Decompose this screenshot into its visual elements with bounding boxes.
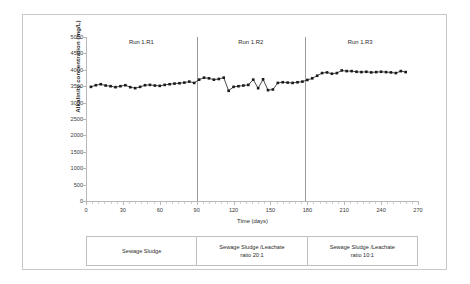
x-minor-tick [258, 202, 259, 204]
x-minor-tick [209, 202, 210, 204]
x-minor-tick [393, 202, 394, 204]
data-point-marker [119, 85, 122, 88]
data-point-marker [222, 76, 225, 79]
data-point-marker [144, 84, 147, 87]
data-point-marker [183, 81, 186, 84]
x-tick-mark [307, 202, 308, 205]
x-tick-mark [418, 202, 419, 205]
data-point-marker [296, 81, 299, 84]
x-minor-tick [178, 202, 179, 204]
x-tick-mark [86, 202, 87, 205]
y-tick-label: 1000 [53, 165, 83, 171]
x-minor-tick [98, 202, 99, 204]
data-point-marker [134, 87, 137, 90]
x-minor-tick [215, 202, 216, 204]
x-minor-tick [252, 202, 253, 204]
data-point-marker [375, 71, 378, 74]
x-minor-tick [338, 202, 339, 204]
data-point-marker [365, 70, 368, 73]
data-point-marker [90, 86, 93, 89]
data-point-marker [331, 72, 334, 75]
data-point-marker [149, 84, 152, 87]
x-tick-mark [123, 202, 124, 205]
data-point-marker [370, 71, 373, 74]
data-point-marker [114, 86, 117, 89]
x-tick-mark [270, 202, 271, 205]
x-minor-tick [283, 202, 284, 204]
data-point-marker [213, 78, 216, 81]
data-point-marker [129, 86, 132, 89]
data-point-marker [286, 81, 289, 84]
data-point-marker [326, 71, 329, 74]
data-point-marker [306, 79, 309, 82]
data-point-marker [316, 74, 319, 77]
y-axis-tick-labels: 0500100015002000250030003500400045005000 [53, 15, 83, 215]
x-minor-tick [154, 202, 155, 204]
data-point-marker [109, 85, 112, 88]
data-point-marker [163, 84, 166, 87]
data-point-marker [242, 84, 245, 87]
data-point-marker [301, 80, 304, 83]
x-minor-tick [135, 202, 136, 204]
x-tick-label: 240 [366, 207, 396, 213]
data-point-marker [252, 78, 255, 81]
x-minor-tick [221, 202, 222, 204]
data-point-marker [168, 83, 171, 86]
x-tick-mark [197, 202, 198, 205]
data-point-marker [385, 71, 388, 74]
condition-cell-text: Sewage Sludge [122, 247, 161, 255]
condition-cell-2: Sewage Sludge /Leachateratio 20:1 [197, 237, 307, 265]
data-point-marker [124, 84, 127, 87]
y-tick-label: 3500 [53, 83, 83, 89]
data-point-marker [399, 70, 402, 73]
data-point-marker [158, 85, 161, 88]
data-point-marker [395, 72, 398, 75]
y-tick-label: 500 [53, 182, 83, 188]
x-minor-tick [166, 202, 167, 204]
data-point-marker [340, 69, 343, 72]
condition-cell-1: Sewage Sludge [87, 237, 197, 265]
x-minor-tick [104, 202, 105, 204]
condition-cell-text: Sewage Sludge /Leachateratio 20:1 [219, 243, 284, 260]
x-minor-tick [246, 202, 247, 204]
data-point-marker [262, 78, 265, 81]
data-point-marker [345, 70, 348, 73]
data-point-marker [99, 83, 102, 86]
x-tick-label: 90 [182, 207, 212, 213]
x-minor-tick [412, 202, 413, 204]
x-tick-label: 60 [145, 207, 175, 213]
data-point-marker [203, 76, 206, 79]
figure-frame: Alkalinity concentration (mg/L) 05001000… [22, 14, 447, 270]
data-point-marker [404, 71, 407, 74]
x-minor-tick [301, 202, 302, 204]
y-tick-label: 4500 [53, 50, 83, 56]
data-point-marker [277, 82, 280, 85]
x-minor-tick [92, 202, 93, 204]
x-minor-tick [240, 202, 241, 204]
data-point-marker [360, 71, 363, 74]
x-minor-tick [111, 202, 112, 204]
x-tick-label: 0 [71, 207, 101, 213]
x-minor-tick [147, 202, 148, 204]
x-tick-label: 120 [219, 207, 249, 213]
data-point-marker [227, 89, 230, 92]
chart-plot-region: Alkalinity concentration (mg/L) 05001000… [23, 15, 448, 215]
y-tick-label: 2500 [53, 116, 83, 122]
x-minor-tick [350, 202, 351, 204]
x-minor-tick [369, 202, 370, 204]
data-point-marker [355, 70, 358, 73]
x-minor-tick [277, 202, 278, 204]
data-point-marker [178, 82, 181, 85]
data-point-marker [272, 88, 275, 91]
data-point-marker [321, 72, 324, 75]
x-minor-tick [375, 202, 376, 204]
x-tick-mark [160, 202, 161, 205]
data-point-marker [257, 87, 260, 90]
x-minor-tick [289, 202, 290, 204]
x-minor-tick [191, 202, 192, 204]
x-minor-tick [141, 202, 142, 204]
x-tick-label: 270 [403, 207, 433, 213]
condition-cell-text: Sewage Sludge /Leachateratio 10:1 [330, 243, 395, 260]
data-point-marker [139, 86, 142, 89]
x-tick-mark [381, 202, 382, 205]
